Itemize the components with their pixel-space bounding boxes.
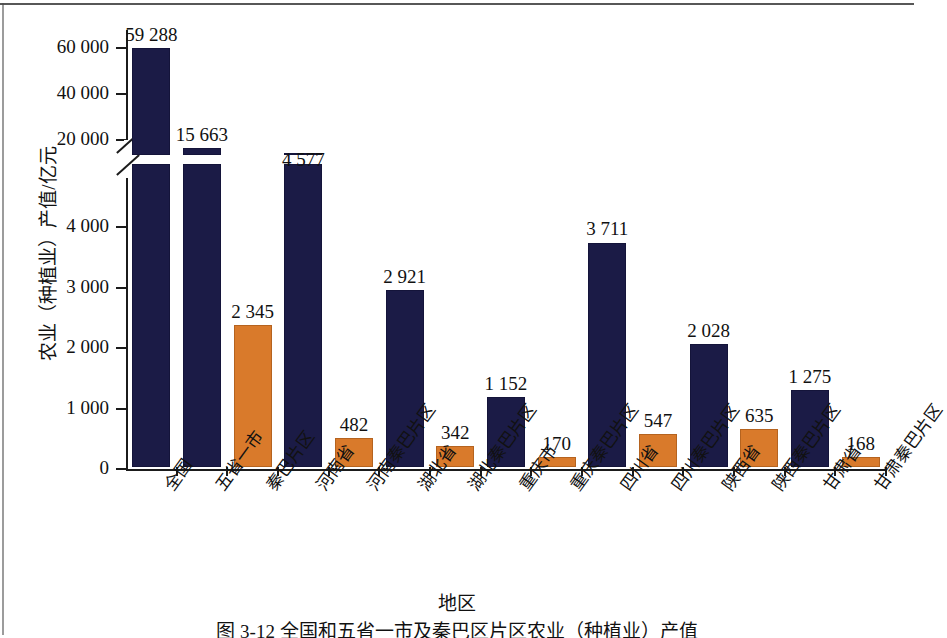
bar-slot: 482	[329, 30, 380, 469]
bar-value-label: 342	[441, 423, 470, 442]
bar-slot: 4 577	[278, 30, 329, 469]
bar-slot: 342	[430, 30, 481, 469]
bar-value-label: 15 663	[176, 125, 228, 144]
y-axis-tick-label: 3 000	[0, 276, 109, 298]
bar-slot: 547	[633, 30, 684, 469]
bar-upper-segment[interactable]	[183, 148, 221, 155]
y-axis-tick-label: 2 000	[0, 336, 109, 358]
bar-upper-segment[interactable]	[132, 48, 170, 155]
bar-value-label: 4 577	[282, 150, 325, 169]
scan-artifact-top-border	[0, 3, 914, 5]
bar-value-label: 635	[745, 406, 774, 425]
x-axis-title: 地区	[0, 588, 914, 615]
figure-caption: 图 3-12 全国和五省一市及秦巴区片区农业（种植业）产值	[0, 616, 914, 638]
bar-value-label: 482	[340, 415, 369, 434]
bar[interactable]	[183, 164, 221, 467]
y-axis-tick-label: 4 000	[0, 215, 109, 237]
bar-value-label: 59 288	[125, 25, 177, 44]
bar-value-label: 1 275	[789, 367, 832, 386]
bar-slot: 15 663	[177, 30, 228, 469]
plot-area: 01 0002 0003 0004 00020 00040 00060 000 …	[126, 30, 886, 471]
bar-series: 59 28815 6632 3454 5774822 9213421 15217…	[126, 30, 886, 471]
bar[interactable]	[284, 164, 322, 467]
bar-value-label: 2 345	[231, 302, 274, 321]
bar-slot: 168	[835, 30, 886, 469]
y-axis-tick-label: 60 000	[0, 36, 109, 58]
bar-slot: 635	[734, 30, 785, 469]
y-axis-tick-label: 0	[0, 457, 109, 479]
bar-value-label: 2 921	[383, 267, 426, 286]
y-axis-tick-label: 1 000	[0, 397, 109, 419]
bar-slot: 170	[531, 30, 582, 469]
bar-value-label: 3 711	[586, 219, 628, 238]
bar-value-label: 547	[644, 411, 673, 430]
bar-slot: 2 345	[227, 30, 278, 469]
y-axis-tick-label: 20 000	[0, 128, 109, 150]
y-axis-tick-label: 40 000	[0, 82, 109, 104]
bar[interactable]	[132, 164, 170, 467]
bar-value-label: 1 152	[485, 374, 528, 393]
bar-slot: 59 288	[126, 30, 177, 469]
bar-value-label: 2 028	[687, 321, 730, 340]
